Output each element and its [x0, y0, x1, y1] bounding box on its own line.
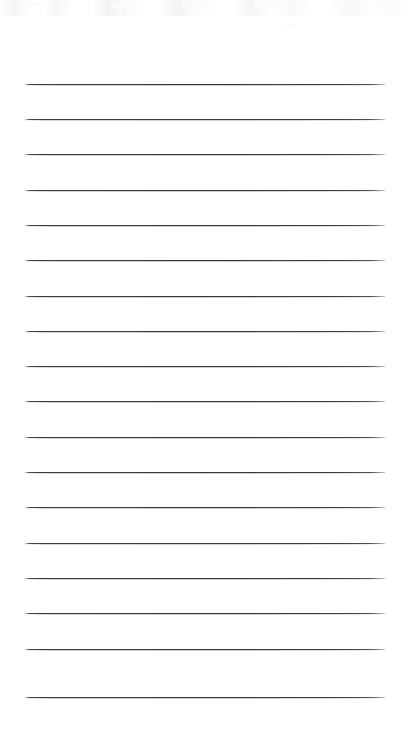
scan-noise-speck — [112, 3, 130, 9]
scan-noise-speck — [332, 2, 343, 7]
rule-line — [25, 225, 385, 226]
scan-noise-speck — [28, 2, 42, 7]
rule-line — [25, 437, 385, 438]
rule-line — [25, 507, 385, 508]
scan-noise-speck — [182, 2, 208, 8]
rule-line — [25, 296, 385, 297]
scan-noise-speck — [372, 3, 386, 8]
scan-noise-speck — [254, 2, 276, 9]
rule-line — [25, 472, 385, 473]
rule-line — [25, 366, 385, 367]
rule-line — [25, 331, 385, 332]
scan-noise-speck — [292, 3, 308, 8]
scan-noise-speck — [286, 24, 294, 28]
rule-line — [25, 613, 385, 614]
scan-noise-speck — [118, 9, 121, 15]
rule-line — [25, 697, 385, 698]
rule-line — [25, 119, 385, 120]
rule-line — [25, 543, 385, 544]
rule-line — [25, 260, 385, 261]
rule-line — [25, 154, 385, 155]
scan-noise-speck — [62, 1, 71, 5]
scanned-page — [0, 0, 409, 738]
rule-line — [25, 84, 385, 85]
rule-line — [25, 401, 385, 402]
rule-line — [25, 578, 385, 579]
scan-noise-band — [0, 0, 409, 16]
rule-line — [25, 649, 385, 650]
rule-line — [25, 190, 385, 191]
